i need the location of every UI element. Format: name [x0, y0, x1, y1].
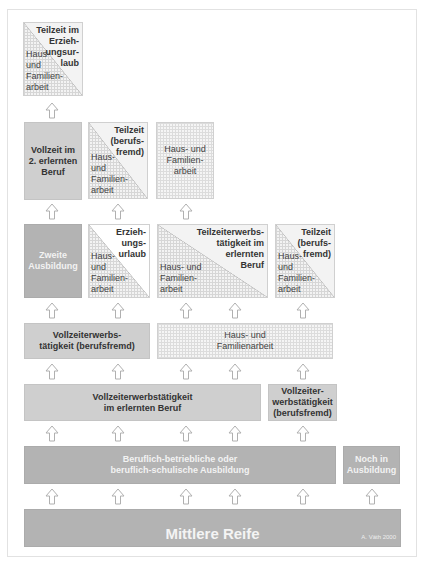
box-vollzeiterwerb-berufsfremd: Vollzeiter- werbstätigkeit (berufsfremd) — [268, 384, 337, 421]
up-arrow-icon — [179, 203, 193, 220]
up-arrow-icon — [45, 488, 59, 505]
box-label: Vollzeiter- werbstätigkeit (berufsfremd) — [272, 386, 333, 419]
box-teilzeit-berufsfremd-2: Teilzeit (berufs- fremd) Haus- und Famil… — [275, 224, 335, 298]
box-teilzeit-erlernter-beruf: Teilzeiterwerbs- tätigkeit im erlernten … — [157, 224, 268, 298]
up-arrow-icon — [45, 425, 59, 442]
box-zweite-ausbildung: Zweite Ausbildung — [24, 224, 82, 298]
up-arrow-icon — [179, 488, 193, 505]
box-vollzeit-berufsfremd: Vollzeiterwerbs- tätigkeit (berufsfremd) — [24, 323, 150, 359]
box-bottom-left-label: Haus- und Familien- arbeit — [91, 251, 128, 295]
up-arrow-icon — [111, 302, 125, 319]
box-label: Beruflich-betriebliche oder beruflich-sc… — [110, 454, 249, 476]
box-haus-familienarbeit: Haus- und Familien- arbeit — [156, 122, 214, 199]
up-arrow-icon — [365, 488, 379, 505]
up-arrow-icon — [296, 488, 310, 505]
box-top-right-label: Teilzeiterwerbs- tätigkeit im erlernten … — [197, 227, 264, 271]
box-label: Vollzeit im 2. erlernten Beruf — [29, 145, 78, 178]
box-noch-in-ausbildung: Noch in Ausbildung — [343, 446, 400, 484]
box-vollzeit-erlernter-beruf: Vollzeiterwerbstätigkeit im erlernten Be… — [24, 384, 261, 421]
box-label: Noch in Ausbildung — [347, 454, 397, 476]
up-arrow-icon — [111, 488, 125, 505]
box-bottom-left-label: Haus- und Familien- arbeit — [160, 262, 202, 295]
up-arrow-icon — [179, 425, 193, 442]
box-haus-familienarbeit-wide: Haus- und Familienarbeit — [157, 323, 333, 359]
box-label: Mittlere Reife — [165, 528, 259, 539]
box-bottom-left-label: Haus- und Familien- arbeit — [278, 251, 315, 295]
box-label: Vollzeiterwerbstätigkeit im erlernten Be… — [93, 392, 193, 414]
box-berufliche-ausbildung: Beruflich-betriebliche oder beruflich-sc… — [24, 446, 336, 484]
up-arrow-icon — [296, 302, 310, 319]
up-arrow-icon — [228, 302, 242, 319]
up-arrow-icon — [228, 488, 242, 505]
up-arrow-icon — [228, 425, 242, 442]
up-arrow-icon — [296, 425, 310, 442]
credit-text: A. Väth 2000 — [361, 532, 396, 543]
box-label: Vollzeiterwerbs- tätigkeit (berufsfremd) — [39, 330, 135, 352]
up-arrow-icon — [228, 363, 242, 380]
box-teilzeit-erziehungsurlaub: Teilzeit im Erzieh- ungsur- laub Haus- u… — [23, 22, 83, 96]
up-arrow-icon — [111, 363, 125, 380]
up-arrow-icon — [111, 425, 125, 442]
up-arrow-icon — [45, 363, 59, 380]
box-label: Haus- und Familienarbeit — [217, 330, 274, 352]
box-label: Haus- und Familien- arbeit — [164, 144, 206, 177]
box-bottom-left-label: Haus- und Familien- arbeit — [91, 152, 128, 196]
up-arrow-icon — [111, 203, 125, 220]
box-vollzeit-2-beruf: Vollzeit im 2. erlernten Beruf — [24, 122, 82, 200]
up-arrow-icon — [179, 302, 193, 319]
box-label: Zweite Ausbildung — [28, 250, 78, 272]
up-arrow-icon — [296, 363, 310, 380]
up-arrow-icon — [179, 363, 193, 380]
box-bottom-left-label: Haus- und Familien- arbeit — [26, 49, 63, 93]
box-erziehungsurlaub: Erzieh- ungs- urlaub Haus- und Familien-… — [88, 224, 150, 298]
box-mittlere-reife: Mittlere Reife A. Väth 2000 — [24, 509, 401, 547]
up-arrow-icon — [45, 102, 59, 119]
up-arrow-icon — [45, 203, 59, 220]
up-arrow-icon — [45, 302, 59, 319]
box-teilzeit-berufsfremd: Teilzeit (berufs- fremd) Haus- und Famil… — [88, 122, 148, 199]
